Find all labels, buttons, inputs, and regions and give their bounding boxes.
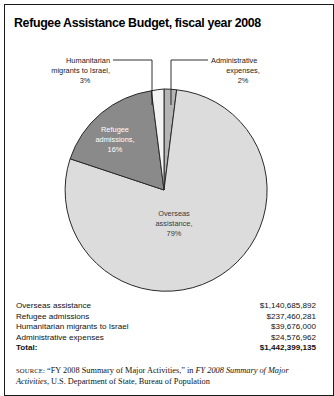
table-row-value: $24,576,962 bbox=[271, 333, 316, 344]
table-row-label: Humanitarian migrants to Israel bbox=[16, 322, 128, 333]
slice-label-refugee-line1: Refugee bbox=[101, 125, 129, 134]
callout-administrative-line3: 2% bbox=[238, 76, 249, 85]
pie-chart: Humanitarian migrants to Israel, 3% Admi… bbox=[5, 43, 323, 293]
table-row: Humanitarian migrants to Israel $39,676,… bbox=[16, 322, 316, 333]
table-total-label: Total: bbox=[16, 343, 37, 354]
table-row-value: $1,140,685,892 bbox=[260, 301, 316, 312]
table-row-label: Administrative expenses bbox=[16, 333, 104, 344]
table-row-total: Total: $1,442,399,135 bbox=[16, 343, 316, 354]
callout-humanitarian-line3: 3% bbox=[80, 76, 91, 85]
slice-label-refugee-line2: admissions, bbox=[95, 135, 134, 144]
callout-humanitarian-line2: migrants to Israel, bbox=[51, 66, 110, 75]
budget-table: Overseas assistance $1,140,685,892 Refug… bbox=[16, 301, 316, 354]
callout-administrative-line1: Administrative bbox=[211, 56, 257, 65]
slice-label-overseas-line3: 79% bbox=[167, 229, 182, 238]
table-row-value: $237,460,281 bbox=[266, 312, 316, 323]
source-part1: “FY 2008 Summary of Major Activities,” i… bbox=[45, 366, 196, 375]
table-row-value: $39,676,000 bbox=[271, 322, 316, 333]
figure-title: Refugee Assistance Budget, fiscal year 2… bbox=[14, 16, 314, 30]
table-row: Administrative expenses $24,576,962 bbox=[16, 333, 316, 344]
source-citation: SOURCE: “FY 2008 Summary of Major Activi… bbox=[16, 365, 318, 387]
slice-label-overseas-line2: assistance, bbox=[156, 219, 193, 228]
callout-humanitarian-line1: Humanitarian bbox=[66, 56, 110, 65]
slice-label-refugee-line3: 16% bbox=[108, 145, 123, 154]
table-row-label: Overseas assistance bbox=[16, 301, 91, 312]
callout-administrative-line2: expenses, bbox=[226, 66, 260, 75]
pie-chart-svg: Humanitarian migrants to Israel, 3% Admi… bbox=[5, 43, 323, 293]
source-prefix: SOURCE: bbox=[16, 367, 45, 374]
source-part2: , U.S. Department of State, Bureau of Po… bbox=[47, 377, 210, 386]
table-row-label: Refugee admissions bbox=[16, 312, 89, 323]
table-row: Overseas assistance $1,140,685,892 bbox=[16, 301, 316, 312]
figure-container: Refugee Assistance Budget, fiscal year 2… bbox=[4, 4, 334, 396]
slice-label-overseas-line1: Overseas bbox=[158, 209, 190, 218]
table-row: Refugee admissions $237,460,281 bbox=[16, 312, 316, 323]
table-total-value: $1,442,399,135 bbox=[260, 343, 316, 354]
